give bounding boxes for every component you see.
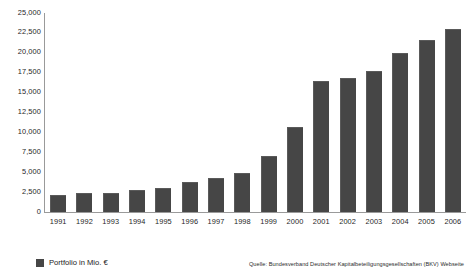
x-tick-label: 1996 xyxy=(177,217,203,226)
bar-2000 xyxy=(287,127,303,212)
x-tick-label: 2005 xyxy=(413,217,439,226)
y-tick-label: 10,000 xyxy=(0,128,41,136)
y-axis: 25,00022,50020,00017,50015,00012,50010,0… xyxy=(0,0,41,226)
x-tick-label: 1992 xyxy=(71,217,97,226)
x-tick-label: 1997 xyxy=(203,217,229,226)
bar-1996 xyxy=(182,182,198,212)
x-axis-line xyxy=(44,212,466,213)
bar-2003 xyxy=(366,71,382,212)
bar-2001 xyxy=(313,81,329,212)
x-tick-label: 2000 xyxy=(282,217,308,226)
x-tick-label: 2001 xyxy=(308,217,334,226)
y-tick-label: 17,500 xyxy=(0,68,41,76)
x-tick-label: 2004 xyxy=(387,217,413,226)
y-tick-label: 0 xyxy=(0,208,41,216)
x-tick-label: 1991 xyxy=(45,217,71,226)
legend-label-portfolio: Portfolio in Mio. € xyxy=(49,258,108,267)
bar-1997 xyxy=(208,178,224,212)
x-tick-label: 2002 xyxy=(334,217,360,226)
y-tick-label: 20,000 xyxy=(0,48,41,56)
x-tick-label: 1995 xyxy=(150,217,176,226)
chart-legend: Portfolio in Mio. € xyxy=(36,258,108,267)
bar-1993 xyxy=(103,193,119,212)
bar-chart-figure: 25,00022,50020,00017,50015,00012,50010,0… xyxy=(0,0,470,279)
bar-1999 xyxy=(261,156,277,212)
bar-2004 xyxy=(392,53,408,212)
y-tick-label: 22,500 xyxy=(0,28,41,36)
bar-2006 xyxy=(445,29,461,212)
bar-1994 xyxy=(129,190,145,212)
bar-2005 xyxy=(419,40,435,212)
y-tick-label: 2,500 xyxy=(0,188,41,196)
source-note: Quelle: Bundesverband Deutscher Kapitalb… xyxy=(249,261,464,268)
x-tick-label: 2006 xyxy=(440,217,466,226)
x-axis: 1991199219931994199519961997199819992000… xyxy=(45,217,466,229)
bar-1992 xyxy=(76,193,92,212)
bar-1991 xyxy=(50,195,66,212)
bar-1995 xyxy=(155,188,171,212)
y-tick-label: 12,500 xyxy=(0,108,41,116)
x-tick-label: 1999 xyxy=(256,217,282,226)
x-tick-label: 2003 xyxy=(361,217,387,226)
x-tick-label: 1993 xyxy=(98,217,124,226)
y-tick-label: 7,500 xyxy=(0,148,41,156)
y-tick-label: 5,000 xyxy=(0,168,41,176)
plot-area: 25,00022,50020,00017,50015,00012,50010,0… xyxy=(0,0,470,226)
legend-swatch-portfolio xyxy=(36,259,44,267)
bar-2002 xyxy=(340,78,356,212)
y-tick-label: 15,000 xyxy=(0,88,41,96)
x-tick-label: 1994 xyxy=(124,217,150,226)
y-tick-label: 25,000 xyxy=(0,9,41,17)
bars-layer xyxy=(45,13,466,212)
x-tick-label: 1998 xyxy=(229,217,255,226)
bar-1998 xyxy=(234,173,250,212)
